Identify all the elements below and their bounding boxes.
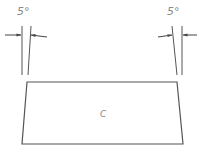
right-angle-label: 5° <box>167 5 180 18</box>
right-angle-marker: 5° <box>158 5 197 75</box>
draft-angle-diagram: 5° 5° C <box>0 0 203 154</box>
left-arrow-out-icon <box>31 35 47 37</box>
left-draft-line <box>28 26 31 75</box>
left-angle-label: 5° <box>17 5 30 18</box>
trapezoid-shape: C <box>22 82 183 144</box>
right-arrow-in-icon <box>158 35 172 37</box>
shape-label: C <box>100 109 107 119</box>
left-angle-marker: 5° <box>5 5 47 75</box>
right-draft-line <box>172 26 177 75</box>
